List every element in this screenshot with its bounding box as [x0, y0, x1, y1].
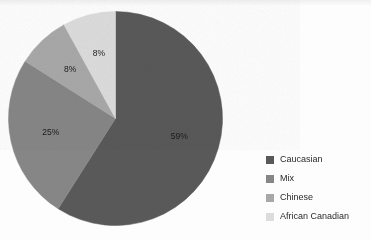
pie-chart-plot-area: 59%25%8%8% [8, 11, 223, 226]
pie-slice-data-label: 8% [64, 64, 77, 74]
pie-slice-data-label: 25% [42, 127, 59, 137]
pie-slice-group [9, 12, 223, 226]
pie-slice-data-label: 8% [93, 48, 106, 58]
legend-item-label: Chinese [280, 193, 313, 202]
pie-slice-data-label: 59% [171, 131, 188, 141]
legend-item[interactable]: Chinese [266, 188, 368, 207]
chart-legend: Caucasian Mix Chinese African Canadian [266, 150, 368, 226]
legend-item[interactable]: Mix [266, 169, 368, 188]
legend-item-label: Mix [280, 174, 294, 183]
legend-swatch-icon [266, 194, 274, 202]
legend-item-label: African Canadian [280, 212, 349, 221]
legend-item-label: Caucasian [280, 155, 323, 164]
legend-item[interactable]: African Canadian [266, 207, 368, 226]
legend-swatch-icon [266, 213, 274, 221]
pie-chart-figure: 59%25%8%8% Caucasian Mix Chinese African… [0, 0, 371, 240]
pie-chart-svg: 59%25%8%8% [8, 11, 223, 226]
legend-swatch-icon [266, 175, 274, 183]
legend-item[interactable]: Caucasian [266, 150, 368, 169]
legend-swatch-icon [266, 156, 274, 164]
